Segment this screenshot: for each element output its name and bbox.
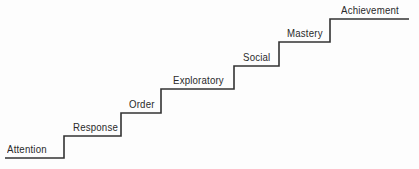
step-label-order: Order — [129, 98, 155, 110]
step-label-exploratory: Exploratory — [173, 74, 224, 86]
step-label-mastery: Mastery — [287, 27, 323, 39]
step-label-response: Response — [73, 121, 118, 133]
step-label-social: Social — [243, 51, 270, 63]
step-label-attention: Attention — [7, 143, 47, 155]
step-label-achievement: Achievement — [341, 4, 399, 16]
